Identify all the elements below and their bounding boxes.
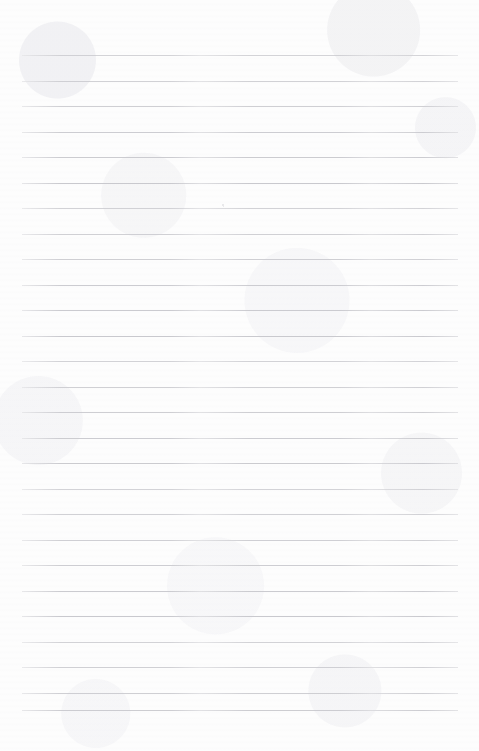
rule-line [22, 412, 458, 413]
rule-line [22, 259, 458, 260]
rule-line [22, 361, 458, 362]
rule-line [22, 285, 458, 286]
rule-line [22, 157, 458, 158]
rule-line [22, 438, 458, 439]
rule-line [22, 667, 458, 668]
rule-line [22, 616, 458, 617]
rule-line [22, 642, 458, 643]
rule-line [22, 183, 458, 184]
ruled-lines-group [0, 0, 479, 751]
rule-line [22, 693, 458, 694]
rule-line [22, 540, 458, 541]
rule-line [22, 565, 458, 566]
rule-line [22, 336, 458, 337]
rule-line [22, 106, 458, 107]
rule-line [22, 489, 458, 490]
rule-line [22, 591, 458, 592]
rule-line [22, 310, 458, 311]
rule-line [22, 132, 458, 133]
rule-line [22, 55, 458, 56]
rule-line [22, 463, 458, 464]
rule-line [22, 514, 458, 515]
rule-line [22, 81, 458, 82]
rule-line [22, 710, 458, 711]
rule-line [22, 208, 458, 209]
rule-line [22, 387, 458, 388]
rule-line [22, 234, 458, 235]
page-speck [223, 206, 224, 207]
scanned-notebook-page [0, 0, 479, 751]
